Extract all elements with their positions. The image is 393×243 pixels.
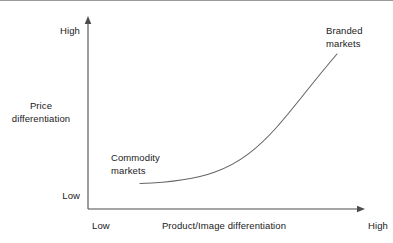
chart-figure: High Price differentiation Low Low Produ… xyxy=(0,0,393,243)
x-axis-title: Product/Image differentiation xyxy=(160,220,288,233)
branded-markets-annotation: Branded markets xyxy=(326,25,392,50)
commodity-markets-annotation: Commodity markets xyxy=(111,152,191,177)
y-axis-low-label: Low xyxy=(40,190,80,203)
y-axis-title: Price differentiation xyxy=(2,100,80,125)
x-axis-arrowhead xyxy=(357,206,365,213)
x-axis-low-label: Low xyxy=(92,220,132,233)
y-axis-arrowhead xyxy=(85,16,92,24)
x-axis-high-label: High xyxy=(348,220,388,233)
y-axis-high-label: High xyxy=(40,25,80,38)
